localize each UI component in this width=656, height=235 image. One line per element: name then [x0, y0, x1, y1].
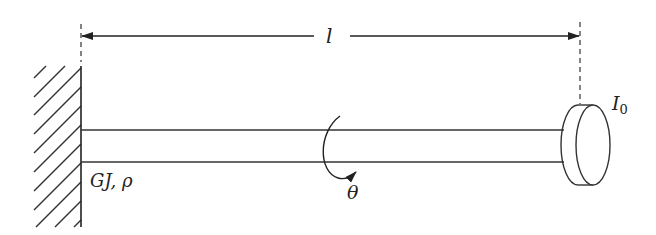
disk-inertia-subscript: 0 [620, 102, 628, 117]
torsion-shaft-diagram: l GJ, ρ θ I0 [0, 0, 656, 235]
length-label: l [326, 26, 332, 46]
fixed-wall-hatching [34, 66, 81, 227]
disk-inertia-main: I [612, 92, 620, 114]
rotor-disk [561, 105, 610, 185]
rotation-arrow [323, 116, 356, 179]
rotation-angle-label: θ [347, 183, 358, 202]
shaft-properties-label: GJ, ρ [90, 172, 133, 190]
disk-inertia-label: I0 [612, 94, 628, 116]
